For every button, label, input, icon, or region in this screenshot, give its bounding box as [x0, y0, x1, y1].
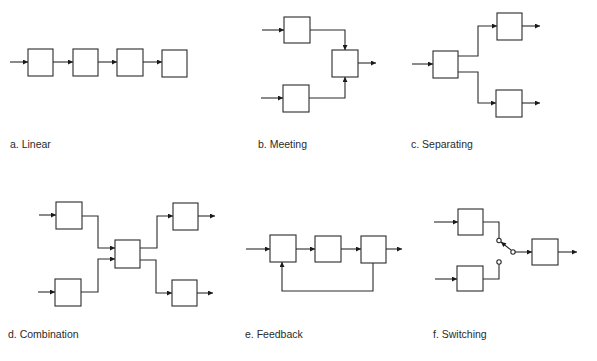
block	[117, 49, 143, 76]
split-arrow	[458, 26, 497, 56]
block	[433, 51, 458, 78]
panel-combination	[38, 202, 215, 306]
panel-separating	[412, 13, 540, 117]
panel-meeting	[261, 17, 376, 112]
block	[56, 202, 82, 229]
block	[284, 17, 310, 43]
merge-arrow	[310, 30, 345, 50]
block	[457, 266, 483, 291]
switch-input-line	[483, 264, 499, 279]
block	[497, 13, 522, 40]
block	[173, 203, 198, 230]
switch-pivot	[511, 250, 515, 254]
panel-feedback	[246, 235, 402, 291]
panel-label-separating: c. Separating	[411, 138, 473, 150]
merge-arrow	[309, 77, 345, 98]
block	[332, 50, 358, 77]
split-arrow	[140, 216, 173, 248]
block	[361, 236, 386, 263]
panel-switching	[434, 209, 577, 291]
flow-patterns-diagram	[0, 0, 597, 361]
block	[172, 280, 197, 306]
block	[115, 240, 140, 268]
block	[162, 50, 187, 77]
panel-label-switching: f. Switching	[433, 328, 487, 340]
block	[496, 90, 522, 117]
merge-arrow	[82, 216, 115, 248]
panel-label-combination: d. Combination	[8, 328, 79, 340]
feedback-loop-arrow	[282, 262, 373, 291]
switch-contact	[497, 238, 501, 242]
panel-label-feedback: e. Feedback	[245, 328, 303, 340]
split-arrow	[140, 260, 172, 293]
block	[532, 239, 558, 265]
block	[270, 235, 296, 262]
block	[315, 236, 341, 262]
switch-input-line	[483, 222, 499, 238]
block	[73, 49, 98, 76]
panel-label-linear: a. Linear	[10, 138, 51, 150]
block	[283, 85, 309, 112]
switch-contact	[497, 260, 501, 264]
panel-linear	[10, 49, 187, 77]
block	[55, 279, 81, 306]
block	[28, 49, 53, 76]
switch-lever	[501, 242, 511, 250]
split-arrow	[458, 72, 496, 103]
panel-label-meeting: b. Meeting	[258, 138, 307, 150]
block	[458, 209, 483, 235]
merge-arrow	[81, 259, 115, 292]
